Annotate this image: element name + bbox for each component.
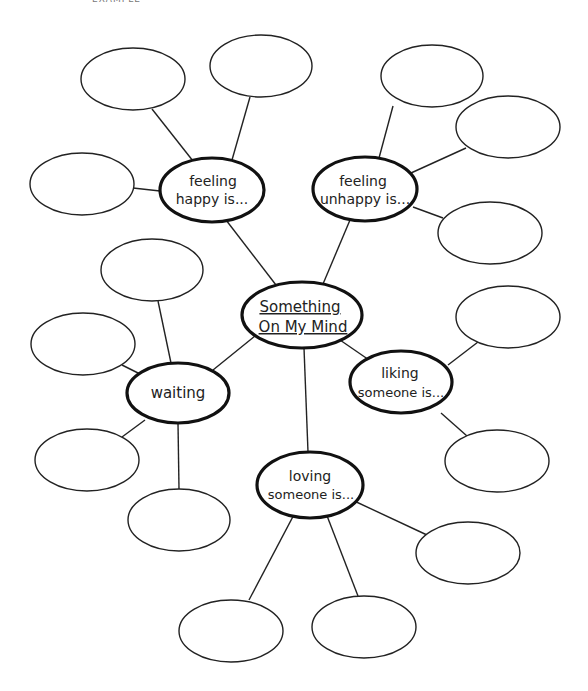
- hub-waiting: waiting: [127, 363, 229, 423]
- empty-bubble[interactable]: [81, 48, 185, 110]
- hub-loving-someone: loving someone is...: [257, 452, 363, 518]
- empty-bubble[interactable]: [456, 286, 560, 348]
- hub-feeling-unhappy: feeling unhappy is...: [313, 157, 417, 221]
- center-node-line2: On My Mind: [259, 318, 348, 336]
- hub-liking-someone-line1: liking: [381, 365, 419, 381]
- empty-bubble[interactable]: [31, 313, 135, 375]
- mind-map-diagram: Something On My Mind feeling happy is...…: [0, 0, 588, 691]
- center-node-line1: Something: [259, 298, 340, 316]
- hub-liking-someone-line2: someone is...: [358, 385, 445, 400]
- liking-someone-bubbles: [445, 286, 560, 492]
- empty-bubble[interactable]: [128, 489, 230, 551]
- empty-bubble[interactable]: [416, 522, 520, 584]
- hub-feeling-unhappy-line2: unhappy is...: [320, 191, 410, 207]
- center-node: Something On My Mind: [242, 282, 362, 348]
- hub-liking-someone: liking someone is...: [350, 351, 452, 413]
- hub-feeling-happy-line2: happy is...: [176, 191, 249, 207]
- empty-bubble[interactable]: [210, 35, 312, 97]
- loving-someone-bubbles: [179, 522, 520, 662]
- hub-feeling-unhappy-line1: feeling: [339, 173, 387, 189]
- empty-bubble[interactable]: [35, 429, 139, 491]
- feeling-unhappy-bubbles: [381, 45, 560, 264]
- hub-feeling-happy: feeling happy is...: [160, 158, 264, 222]
- empty-bubble[interactable]: [101, 239, 203, 301]
- hub-loving-someone-line2: someone is...: [268, 487, 355, 502]
- empty-bubble[interactable]: [456, 96, 560, 158]
- hub-waiting-line1: waiting: [151, 384, 206, 402]
- empty-bubble[interactable]: [30, 153, 134, 215]
- empty-bubble[interactable]: [312, 596, 416, 658]
- hub-loving-someone-line1: loving: [289, 468, 331, 484]
- empty-bubble[interactable]: [179, 600, 283, 662]
- empty-bubble[interactable]: [381, 45, 483, 107]
- empty-bubble[interactable]: [445, 430, 549, 492]
- hub-feeling-happy-line1: feeling: [189, 173, 237, 189]
- empty-bubble[interactable]: [438, 202, 542, 264]
